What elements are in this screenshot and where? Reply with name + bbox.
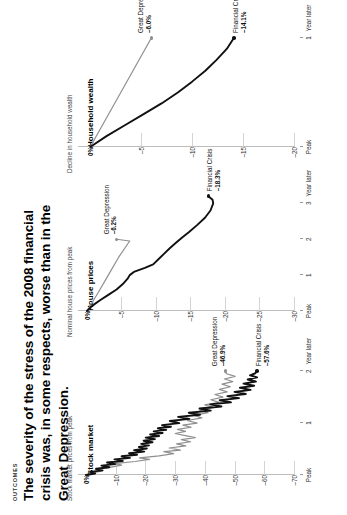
annotation-value: –6.0% <box>145 0 153 33</box>
annotation-label: Great Depression <box>137 0 145 33</box>
series-layer <box>66 21 316 173</box>
series-line <box>86 371 257 475</box>
chart-panel-house-prices: Nominal house prices from peakHouse pric… <box>66 187 328 337</box>
series-line <box>87 239 130 311</box>
series-layer <box>66 349 316 501</box>
infographic-frame: OUTCOMES The severity of the stress of t… <box>0 0 347 515</box>
series-line <box>86 371 235 475</box>
series-line <box>90 38 151 147</box>
financial-crisis-endpoint <box>207 195 210 198</box>
financial-crisis-endpoint <box>232 36 235 39</box>
page-title: The severity of the stress of the 2008 f… <box>20 201 72 501</box>
great-depression-endpoint <box>150 36 153 39</box>
great-depression-endpoint <box>224 369 227 372</box>
annotation-label: Financial Crisis <box>232 0 240 33</box>
annotation-value: –14.1% <box>240 0 248 33</box>
series-line <box>90 38 234 147</box>
section-kicker: OUTCOMES <box>12 463 18 501</box>
financial-crisis-endpoint <box>255 369 258 372</box>
great-depression-annotation: Great Depression–6.2% <box>103 185 118 234</box>
chart-panel-household-wealth: Decline in household wealthHousehold wea… <box>66 23 328 173</box>
annotation-label: Great Depression <box>103 185 111 234</box>
chart-panel-stock-market: Stock market prices from peakStock marke… <box>66 351 328 501</box>
annotation-value: –6.2% <box>110 185 118 234</box>
infographic-canvas: OUTCOMES The severity of the stress of t… <box>0 0 347 515</box>
great-depression-annotation: Great Depression–6.0% <box>137 0 152 33</box>
financial-crisis-annotation: Financial Crisis–14.1% <box>232 0 247 33</box>
